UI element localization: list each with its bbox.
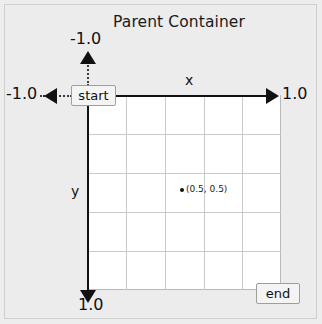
x-axis-min-label: -1.0 xyxy=(6,84,37,103)
y-axis-name-label: y xyxy=(71,183,79,199)
end-node-box[interactable]: end xyxy=(256,283,300,304)
data-point-label: (0.5, 0.5) xyxy=(186,184,227,194)
grid-line-vertical xyxy=(242,95,243,290)
arrow-left-icon xyxy=(44,88,57,104)
grid-line-horizontal xyxy=(88,212,281,213)
x-axis-name-label: x xyxy=(185,72,193,88)
grid-line-vertical xyxy=(126,95,127,290)
arrow-right-icon xyxy=(266,88,279,104)
y-axis-max-label: 1.0 xyxy=(78,295,103,314)
data-point-marker xyxy=(180,188,184,192)
grid-line-vertical xyxy=(165,95,166,290)
coordinate-plot-area xyxy=(88,95,281,290)
start-node-box[interactable]: start xyxy=(71,85,116,106)
grid-line-horizontal xyxy=(88,173,281,174)
grid-line-horizontal xyxy=(88,251,281,252)
y-axis-min-label: -1.0 xyxy=(70,29,101,48)
y-axis-line xyxy=(87,95,89,296)
grid-line-horizontal xyxy=(88,134,281,135)
diagram-canvas: Parent Container -1.0 1.0 -1.0 1.0 x y s… xyxy=(0,0,322,324)
page-title: Parent Container xyxy=(0,13,322,31)
x-axis-max-label: 1.0 xyxy=(282,84,307,103)
arrow-up-icon xyxy=(80,51,96,64)
